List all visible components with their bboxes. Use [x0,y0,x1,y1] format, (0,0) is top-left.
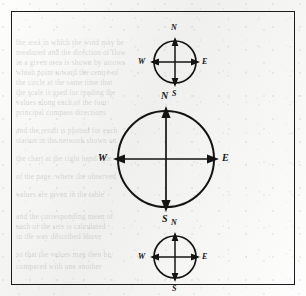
compass-rose-middle: N E S W [104,97,228,221]
compass-label-north: N [171,219,177,227]
figure-page: the area in which the wind may bemeasure… [0,0,306,296]
compass-label-west: W [138,253,145,261]
compass-rose-top: N E S W [142,29,208,95]
compass-label-east: E [202,58,207,66]
compass-label-south: S [162,214,168,224]
compass-middle-graphic [104,97,228,221]
compass-label-west: W [98,153,107,163]
compass-label-north: N [161,91,168,101]
compass-top-graphic [142,29,208,95]
compass-rose-bottom: N E S W [142,224,208,290]
compass-label-south: S [172,285,176,293]
figure-frame: N E S W N E S W [11,11,295,285]
compass-label-east: E [202,253,207,261]
compass-label-east: E [222,153,229,163]
compass-label-north: N [171,24,177,32]
compass-bottom-graphic [142,224,208,290]
compass-label-west: W [138,58,145,66]
